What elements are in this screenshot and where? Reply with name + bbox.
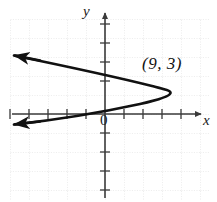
coordinate-plane-svg xyxy=(0,0,217,202)
origin-label: 0 xyxy=(100,113,108,128)
point-coordinate-annotation: (9, 3) xyxy=(142,55,182,72)
y-axis-label: y xyxy=(83,4,90,19)
graph-figure: y x 0 (9, 3) xyxy=(0,0,217,202)
x-axis-label: x xyxy=(203,113,210,128)
